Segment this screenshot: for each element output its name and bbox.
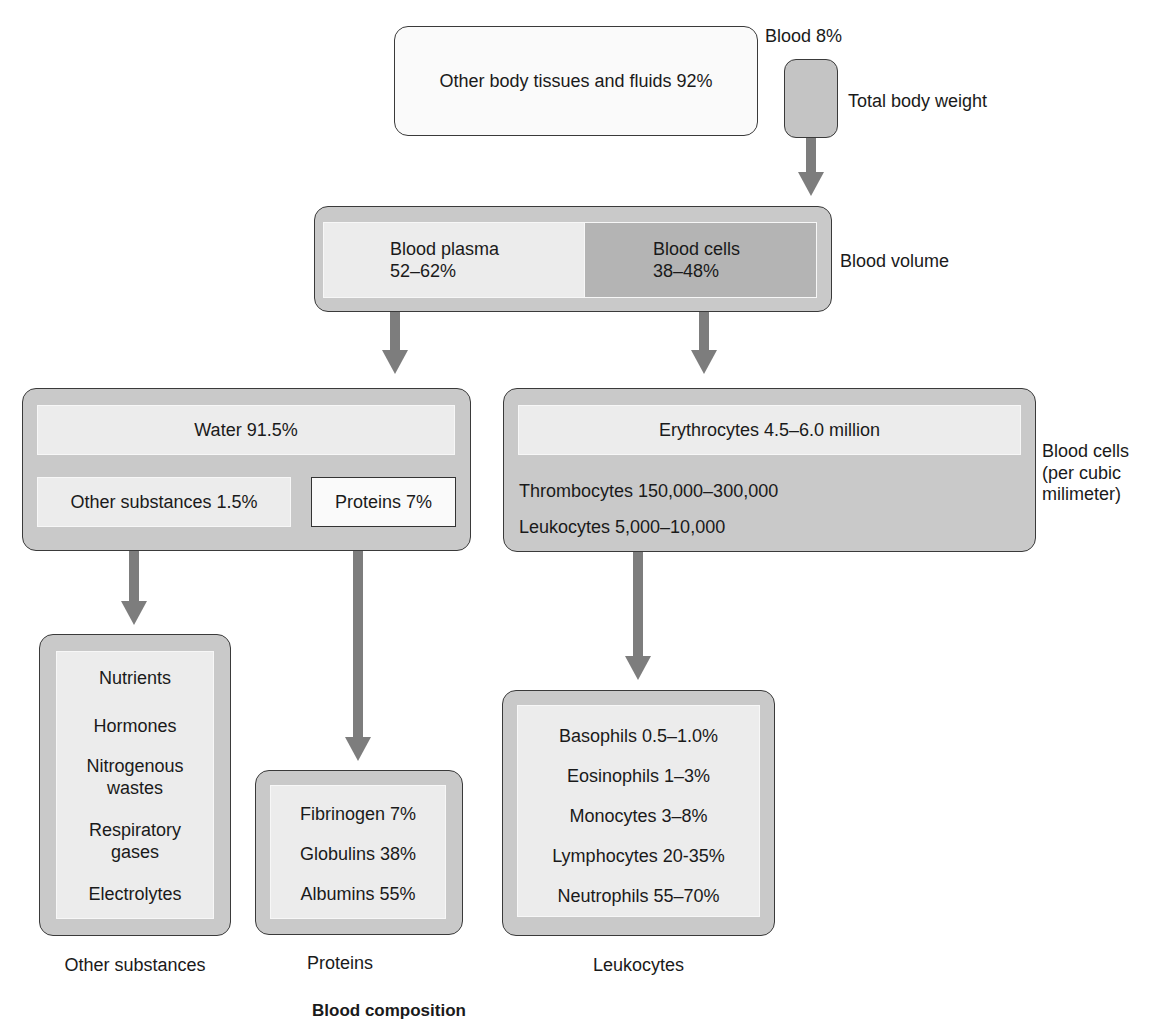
list-item: Lymphocytes 20-35%: [518, 846, 759, 868]
other-substances-caption: Other substances: [20, 955, 250, 977]
erythrocytes-cell: Erythrocytes 4.5–6.0 million: [518, 405, 1021, 455]
blood-cells-side-label: Blood cells (per cubic milimeter): [1042, 441, 1129, 506]
plasma-box: Water 91.5% Other substances 1.5% Protei…: [22, 388, 471, 551]
list-item: Nitrogenous wastes: [69, 756, 201, 799]
total-body-weight-label: Total body weight: [848, 91, 987, 113]
proteins-label: Proteins 7%: [312, 492, 455, 514]
other-substances-box: Nutrients Hormones Nitrogenous wastes Re…: [39, 634, 231, 936]
blood-cells-side-line2: (per cubic: [1042, 463, 1129, 485]
water-cell: Water 91.5%: [37, 405, 455, 455]
blood-8-label: Blood 8%: [765, 26, 842, 48]
blood-volume-box: Blood plasma 52–62% Blood cells 38–48%: [314, 206, 832, 312]
other-tissues-label: Other body tissues and fluids 92%: [395, 71, 757, 93]
diagram-title: Blood composition: [312, 1001, 466, 1021]
list-item: Nutrients: [57, 668, 213, 690]
leukocytes-box: Basophils 0.5–1.0% Eosinophils 1–3% Mono…: [502, 690, 775, 936]
erythrocytes-label: Erythrocytes 4.5–6.0 million: [519, 420, 1020, 442]
blood-pill: [784, 59, 838, 138]
blood-cells-name: Blood cells: [653, 239, 740, 261]
blood-cells-box: Erythrocytes 4.5–6.0 million Thrombocyte…: [503, 388, 1036, 552]
blood-plasma-value: 52–62%: [390, 261, 456, 283]
list-item: Globulins 38%: [271, 844, 445, 866]
list-item: Basophils 0.5–1.0%: [518, 726, 759, 748]
thrombocytes-label: Thrombocytes 150,000–300,000: [519, 481, 778, 503]
leukocytes-list: Basophils 0.5–1.0% Eosinophils 1–3% Mono…: [517, 705, 760, 917]
water-label: Water 91.5%: [38, 420, 454, 442]
other-substances-cell: Other substances 1.5%: [37, 477, 291, 527]
blood-volume-label: Blood volume: [840, 251, 949, 273]
blood-cells-side-line3: milimeter): [1042, 484, 1129, 506]
blood-cells-cell: Blood cells 38–48%: [584, 222, 817, 298]
proteins-caption: Proteins: [255, 953, 425, 975]
proteins-list: Fibrinogen 7% Globulins 38% Albumins 55%: [270, 785, 446, 919]
blood-plasma-name: Blood plasma: [390, 239, 499, 261]
list-item: Neutrophils 55–70%: [518, 886, 759, 908]
list-item: Monocytes 3–8%: [518, 806, 759, 828]
list-item: Electrolytes: [57, 884, 213, 906]
list-item: Fibrinogen 7%: [271, 804, 445, 826]
blood-cells-value: 38–48%: [653, 261, 719, 283]
list-item: Respiratory gases: [69, 820, 201, 863]
other-substances-label: Other substances 1.5%: [38, 492, 290, 514]
list-item: Albumins 55%: [271, 884, 445, 906]
leukocytes-caption: Leukocytes: [502, 955, 775, 977]
blood-cells-side-line1: Blood cells: [1042, 441, 1129, 463]
other-tissues-box: Other body tissues and fluids 92%: [394, 26, 758, 136]
blood-plasma-cell: Blood plasma 52–62%: [323, 222, 585, 298]
list-item: Hormones: [57, 716, 213, 738]
proteins-box: Fibrinogen 7% Globulins 38% Albumins 55%: [255, 770, 463, 935]
list-item: Eosinophils 1–3%: [518, 766, 759, 788]
proteins-cell: Proteins 7%: [311, 477, 456, 527]
leukocytes-count-label: Leukocytes 5,000–10,000: [519, 517, 725, 539]
other-substances-list: Nutrients Hormones Nitrogenous wastes Re…: [56, 651, 214, 919]
